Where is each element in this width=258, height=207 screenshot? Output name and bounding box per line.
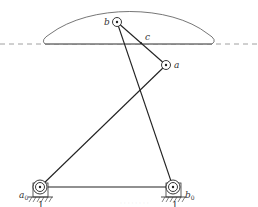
label-b0: b0 — [185, 190, 195, 201]
ground-label-right: 1 — [172, 200, 178, 207]
label-c: c — [145, 32, 150, 42]
label-a0: a0 — [19, 190, 28, 201]
linkage-diagram: b c a a0 b0 1 1 · · · · · · · · — [0, 0, 258, 207]
joint-a-icon — [162, 61, 171, 70]
label-a: a — [174, 60, 179, 70]
pivot-b0-icon — [166, 180, 180, 194]
coupler-curve — [43, 12, 214, 45]
ground-label-left: 1 — [38, 200, 44, 207]
joint-b-icon — [113, 18, 122, 27]
caption-faint: · · · · · · · · — [120, 199, 149, 206]
pivot-a0-icon — [33, 180, 47, 194]
point-c-marker — [140, 42, 142, 44]
label-b: b — [104, 17, 110, 27]
link-a0-a-crank — [40, 65, 166, 187]
